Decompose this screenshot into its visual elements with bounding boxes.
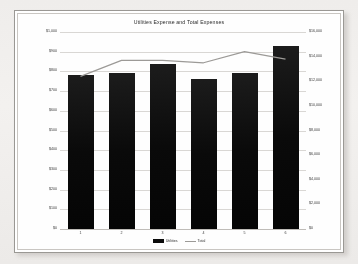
line-series-total: [60, 32, 306, 229]
total-line-path: [81, 52, 286, 77]
gridline: [60, 229, 306, 230]
left-axis-tick-label: $900: [49, 50, 57, 54]
category-tick-label: 2: [109, 232, 135, 236]
left-axis-tick-label: $800: [49, 69, 57, 73]
right-axis-tick-label: $12,000: [309, 79, 322, 83]
plot-area: $1,000$900$800$700$600$500$400$300$200$1…: [60, 32, 306, 229]
right-axis-tick-label: $2,000: [309, 202, 320, 206]
legend-item-utilities: Utilities: [153, 239, 178, 243]
chart-area: Utilities Expense and Total Expenses $1,…: [18, 14, 340, 249]
right-axis-tick-label: $16,000: [309, 30, 322, 34]
right-axis-tick-label: $4,000: [309, 178, 320, 182]
category-tick-label: 4: [191, 232, 217, 236]
right-axis-tick-label: $0: [309, 227, 313, 231]
right-axis-tick-label: $6,000: [309, 153, 320, 157]
legend-swatch-bar-icon: [153, 239, 164, 242]
left-axis-tick-label: $600: [49, 109, 57, 113]
left-axis-tick-label: $1,000: [46, 30, 57, 34]
left-axis-tick-label: $400: [49, 148, 57, 152]
left-axis-tick-label: $200: [49, 188, 57, 192]
right-axis-tick-label: $14,000: [309, 55, 322, 59]
legend-swatch-line-icon: [185, 240, 196, 243]
legend-label-utilities: Utilities: [166, 239, 178, 243]
chart-title: Utilities Expense and Total Expenses: [18, 19, 340, 25]
left-axis-tick-label: $700: [49, 89, 57, 93]
category-tick-label: 6: [273, 232, 299, 236]
left-axis-tick-label: $500: [49, 129, 57, 133]
legend-label-total: Total: [198, 239, 206, 243]
left-axis-tick-label: $100: [49, 207, 57, 211]
chart-card: Utilities Expense and Total Expenses $1,…: [14, 10, 344, 253]
left-axis-tick-label: $0: [53, 227, 57, 231]
category-tick-label: 3: [150, 232, 176, 236]
left-axis-tick-label: $300: [49, 168, 57, 172]
right-axis-tick-label: $8,000: [309, 129, 320, 133]
chart-legend: Utilities Total: [18, 239, 340, 243]
right-axis-tick-label: $10,000: [309, 104, 322, 108]
category-tick-label: 1: [68, 232, 94, 236]
legend-item-total: Total: [185, 239, 206, 243]
chart-card-inner-border: Utilities Expense and Total Expenses $1,…: [17, 13, 341, 250]
category-tick-label: 5: [232, 232, 258, 236]
